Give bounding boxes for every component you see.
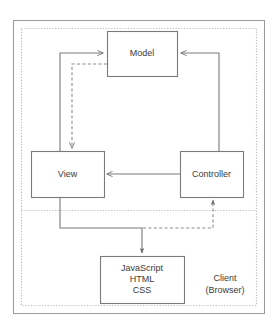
mvc-diagram: Model View Controller JavaScript HTML CS…: [0, 0, 278, 330]
edge-controller-to-model: [181, 53, 219, 151]
node-box-view: [32, 152, 105, 198]
client-zone-label-line2: (Browser): [205, 284, 244, 296]
edge-view-to-assets: [60, 197, 142, 253]
edge-model-to-view: [72, 64, 107, 148]
edge-view-to-model: [60, 53, 103, 151]
client-zone-label: Client (Browser): [197, 272, 253, 296]
node-box-assets: [101, 257, 185, 304]
node-box-model: [108, 32, 178, 77]
node-box-controller: [181, 152, 244, 198]
client-zone-label-line1: Client: [213, 272, 236, 284]
edge-assets-to-controller: [143, 200, 213, 228]
